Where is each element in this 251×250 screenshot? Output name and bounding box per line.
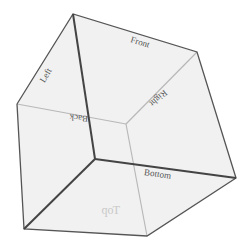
face-label-back: Back — [69, 112, 89, 124]
cube-diagram: Front Left Right Back Top Bottom — [0, 0, 251, 250]
face-label-top: Top — [102, 203, 121, 217]
